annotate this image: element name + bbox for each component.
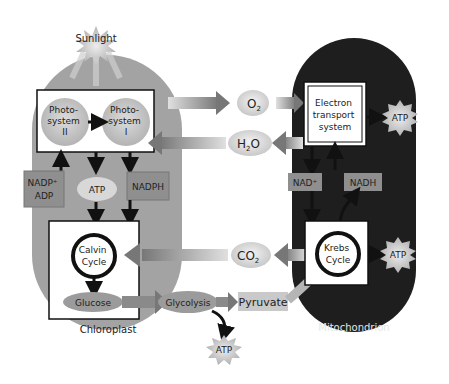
arrow-h2o-to-ps1 (160, 137, 226, 149)
nadp-adp-box (24, 171, 64, 207)
nadph-label: NADPH (132, 182, 164, 192)
co2-base: CO (237, 249, 255, 263)
arrow-to-o2 (168, 97, 218, 109)
atp-label-chloroplast: ATP (89, 185, 106, 195)
krebs-line1: Krebs (324, 243, 350, 253)
glucose-label: Glucose (75, 298, 111, 308)
ets-line1: Electron (315, 98, 352, 108)
calvin-line1: Calvin (79, 245, 107, 255)
krebs-line2: Cycle (326, 255, 351, 265)
svg-text:Electron transport sys: Electron transport system (313, 98, 357, 132)
photosynthesis-respiration-diagram: Sunlight Photo- system II Photo- system … (0, 0, 449, 384)
o2-base: O (247, 97, 256, 111)
ets-line3: system (319, 122, 352, 132)
atp-label-ets: ATP (392, 113, 409, 123)
calvin-line2: Cycle (82, 257, 107, 267)
arrow-glycolysis-atp (212, 311, 225, 334)
o2-sub: 2 (256, 105, 260, 113)
ps1-line1: Photo- (110, 105, 139, 115)
mitochondrion-label: Mitochondrion (318, 322, 389, 333)
h2o-o: O (251, 137, 260, 151)
nadh-label: NADH (350, 178, 377, 188)
atp-label-krebs: ATP (390, 250, 407, 260)
glycolysis-label: Glycolysis (166, 298, 211, 308)
chloroplast-label: Chloroplast (80, 324, 137, 335)
adp-label: ADP (35, 191, 54, 201)
arrow-head-o2 (216, 91, 230, 115)
ps1-line3: I (125, 127, 128, 137)
sunlight-label: Sunlight (75, 33, 116, 44)
nadp-label: NADP⁺ (28, 178, 58, 188)
ps2-line1: Photo- (49, 105, 78, 115)
pyruvate-label: Pyruvate (239, 296, 288, 309)
arrow-o2-to-ets (276, 97, 296, 109)
ps1-line2: system (108, 116, 141, 126)
co2-sub: 2 (255, 257, 259, 265)
nad-label: NAD⁺ (293, 178, 318, 188)
ps2-line3: II (62, 127, 67, 137)
h2o-h: H (237, 137, 246, 151)
ps2-line2: system (47, 116, 80, 126)
ets-line2: transport (313, 110, 355, 120)
atp-label-glycolysis: ATP (216, 345, 233, 355)
arrow-co2-to-calvin (142, 249, 228, 261)
